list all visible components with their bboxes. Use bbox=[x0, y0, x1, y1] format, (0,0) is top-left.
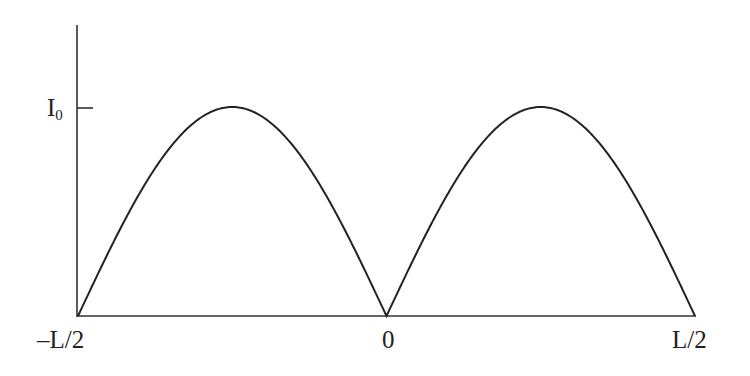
y-tick-label-subscript: 0 bbox=[55, 107, 63, 123]
x-tick-label-left: –L/2 bbox=[37, 327, 84, 352]
current-curve bbox=[78, 107, 695, 316]
y-tick-label-i0: I0 bbox=[47, 95, 63, 123]
x-tick-label-center: 0 bbox=[382, 327, 395, 352]
chart-canvas bbox=[0, 0, 750, 376]
x-tick-label-right: L/2 bbox=[672, 327, 707, 352]
